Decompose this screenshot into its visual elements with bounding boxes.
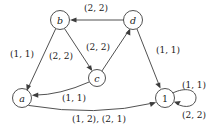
- edge-d-to-b: (2, 2): [70, 3, 124, 23]
- node-d-label: d: [130, 15, 136, 26]
- edge-d-to-1-arrowhead: [155, 82, 160, 88]
- edge-label-b-to-c: (2, 2): [49, 51, 73, 61]
- node-1-label: 1: [162, 93, 168, 104]
- node-b[interactable]: b: [51, 11, 70, 30]
- node-d[interactable]: d: [124, 11, 143, 30]
- edge-b-to-c-arrowhead: [86, 65, 92, 71]
- edge-d-to-1: (1, 1): [137, 29, 180, 89]
- graph-figure: (2, 2) (1, 1) (2, 2) (2, 2) (1, 1): [0, 0, 217, 134]
- edge-label-1-self-bottom: (2, 2): [182, 110, 206, 120]
- edge-label-d-to-b: (2, 2): [84, 3, 108, 13]
- edge-a-to-1-arrowhead: [150, 102, 157, 107]
- edge-label-c-to-d: (2, 2): [86, 42, 110, 52]
- edge-1-self-loop: (1, 1) (2, 2): [173, 80, 206, 120]
- edge-label-a-to-1: (1, 2), (2, 1): [72, 114, 126, 124]
- edge-c-to-a: (1, 1): [32, 82, 89, 103]
- graph-canvas: (2, 2) (1, 1) (2, 2) (2, 2) (1, 1): [0, 0, 217, 134]
- node-b-label: b: [57, 15, 63, 26]
- edge-c-to-d: (2, 2): [86, 28, 130, 71]
- node-a-label: a: [19, 93, 25, 104]
- edge-label-d-to-1: (1, 1): [156, 45, 180, 55]
- edge-label-b-to-a: (1, 1): [10, 49, 34, 59]
- edge-a-to-1: (1, 2), (2, 1): [29, 102, 156, 124]
- edge-label-1-self-top: (1, 1): [182, 80, 206, 90]
- edge-c-to-a-arrowhead: [32, 93, 39, 98]
- edge-label-c-to-a: (1, 1): [62, 93, 86, 103]
- node-c[interactable]: c: [89, 70, 106, 87]
- node-1[interactable]: 1: [156, 89, 175, 108]
- edge-a-to-1-line: [29, 103, 154, 111]
- edge-d-to-b-arrowhead: [70, 17, 77, 22]
- node-a[interactable]: a: [13, 89, 32, 108]
- edge-1-self-loop-line: [173, 90, 196, 107]
- node-c-label: c: [94, 73, 100, 84]
- edge-d-to-1-line: [137, 29, 160, 86]
